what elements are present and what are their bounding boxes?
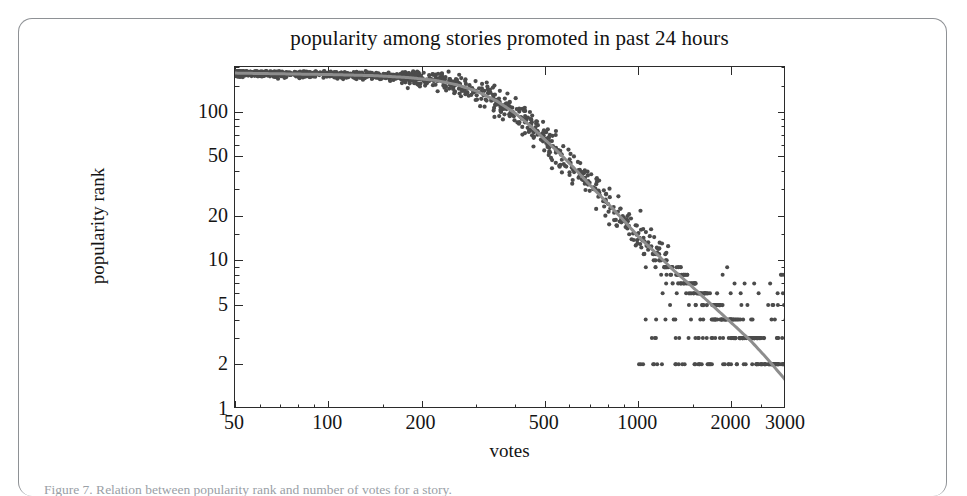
x-tick-label: 2000	[710, 412, 750, 432]
scatter-plot-canvas	[235, 67, 785, 408]
y-axis-title: popularity rank	[87, 106, 109, 346]
chart-title: popularity among stories promoted in pas…	[234, 26, 785, 51]
x-tick-label: 200	[406, 412, 436, 432]
y-tick-label: 50	[208, 145, 228, 165]
figure: popularity among stories promoted in pas…	[0, 0, 967, 460]
y-axis-tick-labels: 125102050100	[184, 66, 228, 408]
y-tick-label: 2	[218, 353, 228, 373]
plot-area	[234, 66, 785, 408]
x-tick-label: 1000	[617, 412, 657, 432]
x-tick-label: 3000	[765, 412, 805, 432]
x-tick-label: 50	[224, 412, 244, 432]
x-tick-label: 100	[312, 412, 342, 432]
x-axis-title: votes	[234, 440, 785, 462]
y-tick-label: 20	[208, 205, 228, 225]
y-tick-label: 100	[198, 101, 228, 121]
y-tick-label: 10	[208, 249, 228, 269]
y-tick-label: 5	[218, 294, 228, 314]
figure-caption: Figure 7. Relation between popularity ra…	[44, 481, 924, 496]
x-tick-label: 500	[529, 412, 559, 432]
x-axis-tick-labels: 50100200500100020003000	[234, 412, 785, 436]
scanned-page: popularity among stories promoted in pas…	[0, 0, 967, 496]
